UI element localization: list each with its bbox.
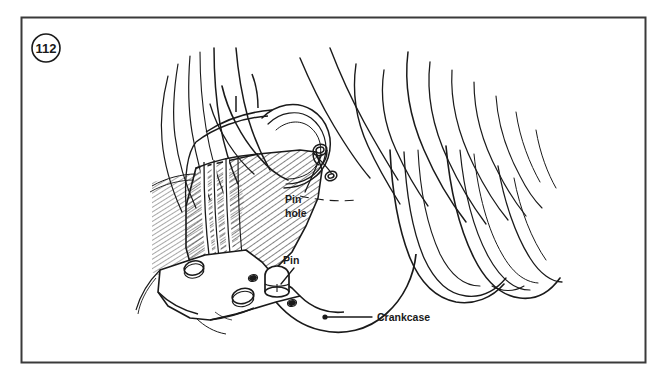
leader-crankcase-dot <box>322 314 327 319</box>
callout-pin-label: Pin <box>283 254 299 266</box>
callout-pin-hole-line2: hole <box>285 207 307 219</box>
figure-frame <box>22 18 646 363</box>
callout-crankcase-label: Crankcase <box>377 311 430 323</box>
figure-canvas: Pin hole Pin Crankcase 112 <box>0 0 659 377</box>
callout-pin-hole-line1: Pin <box>285 193 301 205</box>
figure-number-text: 112 <box>36 41 57 56</box>
technical-illustration-figure: Pin hole Pin Crankcase 112 <box>0 0 659 377</box>
figure-number-badge: 112 <box>32 34 60 62</box>
